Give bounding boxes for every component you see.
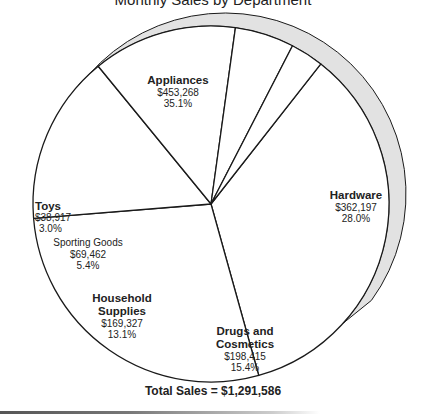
label-toys: Toys $38,917 3.0% — [35, 201, 75, 234]
label-drugs-cosmetics: Drugs and Cosmetics $198,415 15.4% — [205, 325, 285, 373]
label-household-supplies: Household Supplies $169,327 13.1% — [82, 292, 162, 340]
total-sales: Total Sales = $1,291,586 — [0, 384, 426, 398]
label-sporting-goods: Sporting Goods $69,462 5.4% — [44, 236, 132, 271]
label-hardware: Hardware $362,197 28.0% — [316, 189, 396, 224]
bottom-rule — [0, 411, 320, 414]
label-appliances: Appliances $453,268 35.1% — [130, 74, 226, 109]
